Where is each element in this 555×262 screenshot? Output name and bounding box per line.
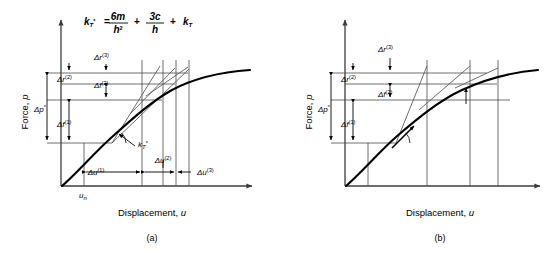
secant-baseline — [112, 69, 189, 143]
equation-lhs: kT* — [84, 16, 96, 28]
figure-root: kT* = 6m h2 + 3c h + kT Force, p Δp* — [0, 0, 555, 262]
panel-a-x-axis-title: Displacement, u — [118, 207, 187, 218]
panel-b-caption: (b) — [435, 233, 446, 243]
label-delta-u1: Δu(1) — [87, 167, 105, 177]
equation-equals: = — [104, 16, 110, 27]
equation-term1-numerator: 6m — [111, 11, 126, 22]
label-un: un — [79, 191, 87, 201]
panel-a-y-axis-title: Force, p — [19, 95, 30, 130]
tangent-stiffness-equation: kT* = 6m h2 + 3c h + kT — [84, 11, 194, 35]
equation-plus-2: + — [170, 16, 176, 27]
equation-term2-numerator: 3c — [149, 11, 161, 22]
label-delta-f2-b: Δf(2) — [377, 89, 393, 99]
force-displacement-curve-b — [346, 70, 538, 186]
label-delta-r2: Δr(2) — [56, 74, 72, 84]
panel-a-caption: (a) — [147, 233, 158, 243]
equation-term2-denominator: h — [152, 24, 158, 35]
panel-a-labels: Force, p Δp* Δf(1) Δf(2) Δr(2) Δr(3) kT* — [19, 52, 214, 243]
label-delta-p-star: Δp* — [33, 104, 47, 114]
label-kt-star: kT* — [138, 140, 149, 150]
equation-term3: kT — [183, 16, 194, 28]
panel-b-y-axis-title: Force, p — [303, 95, 314, 130]
secant-line-3 — [146, 67, 188, 96]
label-delta-r3-b: Δr(3) — [377, 44, 393, 54]
slope-pointer — [119, 134, 135, 146]
label-delta-r2-b: Δr(2) — [340, 74, 356, 84]
force-displacement-diagram: kT* = 6m h2 + 3c h + kT Force, p Δp* — [0, 0, 555, 262]
label-delta-u2: Δu(2) — [154, 155, 172, 165]
label-delta-p-star-b: Δp* — [317, 104, 331, 114]
secant-line-1-b — [396, 66, 427, 143]
label-delta-r3: Δr(3) — [93, 52, 109, 62]
panel-a — [47, 20, 252, 186]
panel-b-x-axis-title: Displacement, u — [406, 207, 475, 218]
equation-plus-1: + — [134, 16, 140, 27]
panel-b — [331, 20, 540, 186]
label-delta-u3: Δu(3) — [196, 167, 214, 177]
equation-term1-denominator: h2 — [113, 24, 122, 35]
